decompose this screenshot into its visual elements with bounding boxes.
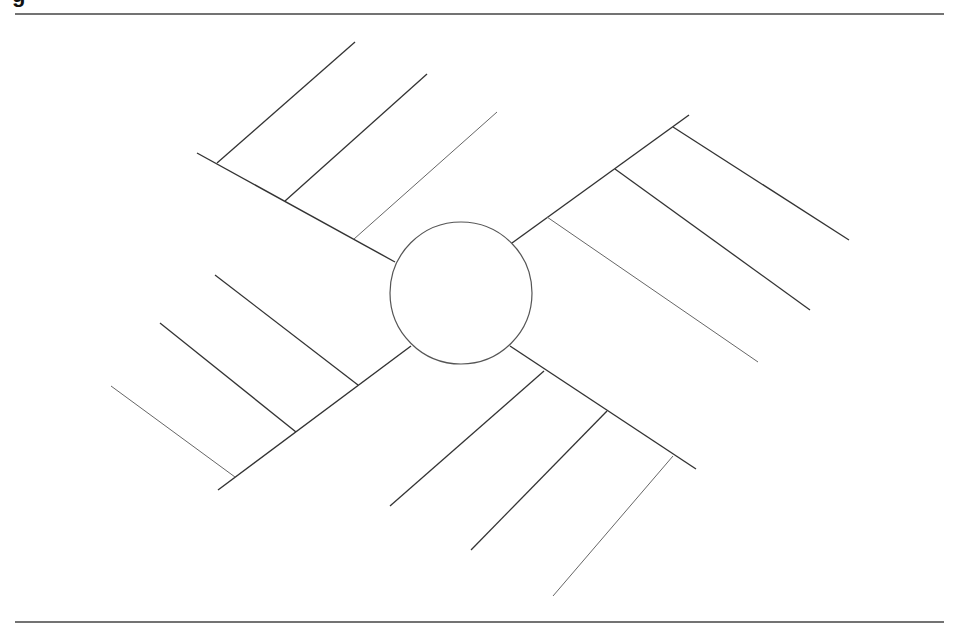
arm-line	[510, 346, 696, 469]
center-circle	[390, 222, 532, 364]
branch-line	[354, 112, 497, 239]
arm-lower-right	[390, 346, 696, 596]
arm-lower-left	[111, 275, 411, 490]
arm-upper-right	[512, 115, 849, 362]
branch-line	[215, 275, 358, 385]
arm-line	[512, 115, 689, 243]
branch-line	[160, 323, 296, 432]
branch-line	[615, 169, 810, 310]
branch-line	[547, 217, 758, 362]
branch-line	[285, 74, 427, 201]
spider-map-diagram	[0, 0, 959, 643]
branch-line	[111, 386, 235, 477]
branch-line	[673, 127, 849, 240]
arm-line	[218, 346, 411, 490]
branch-line	[471, 411, 607, 550]
branch-line	[217, 42, 355, 163]
branch-line	[390, 371, 544, 506]
branch-line	[553, 456, 673, 596]
arm-line	[197, 153, 395, 262]
